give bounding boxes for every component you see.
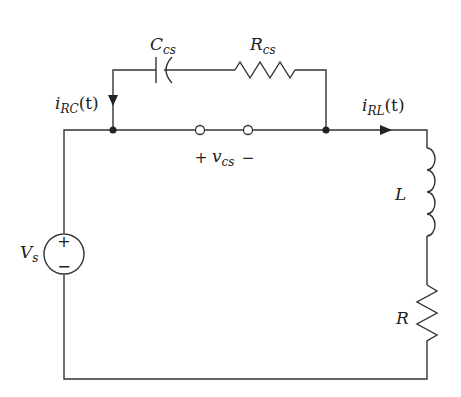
wire-left-bottom: [64, 275, 427, 379]
label-r: R: [395, 308, 409, 328]
vcs-minus: −: [242, 149, 255, 167]
node-left: [110, 127, 117, 134]
arrow-down-icon: [108, 95, 118, 106]
label-vs: Vs: [20, 242, 38, 265]
node-right: [323, 127, 330, 134]
label-l: L: [394, 184, 406, 204]
source-plus: +: [57, 232, 70, 251]
inductor-icon: [427, 148, 435, 236]
arrow-right-icon: [380, 125, 392, 135]
wire-top-right: [252, 130, 427, 148]
source-minus: −: [57, 257, 70, 276]
branch-left: [113, 70, 156, 130]
label-rcs: Rcs: [249, 34, 276, 57]
resistor-cs-icon: [235, 62, 295, 78]
label-irl: iRL(t): [362, 95, 405, 118]
label-ccs: Ccs: [150, 34, 176, 57]
terminal-plus: [196, 126, 205, 135]
label-irc: iRC(t): [55, 93, 99, 116]
resistor-icon: [417, 285, 437, 350]
vcs-plus: +: [195, 149, 208, 167]
branch-right: [295, 70, 326, 130]
circuit-diagram: + − Ccs Rcs iRC(t) iRL(t) + vcs − L R Vs: [0, 0, 461, 397]
wire-left-top: [64, 130, 200, 233]
label-vcs: vcs: [212, 146, 235, 169]
terminal-minus: [244, 126, 253, 135]
